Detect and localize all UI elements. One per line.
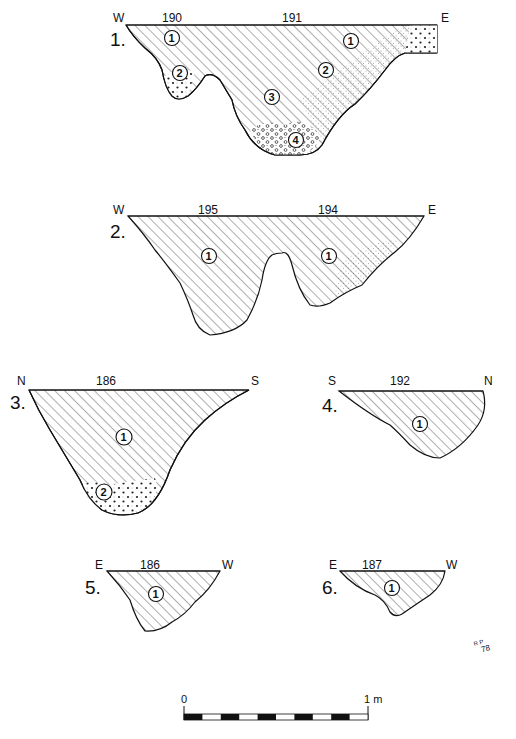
section-4-profile xyxy=(339,391,485,458)
feature-label-191: 191 xyxy=(282,11,302,25)
svg-text:1: 1 xyxy=(348,35,354,47)
section-2: W 195 194 E 2. 1 1 xyxy=(110,203,436,335)
svg-text:78: 78 xyxy=(480,643,491,654)
scale-start-label: 0 xyxy=(181,693,187,705)
scale-end-label: 1 m xyxy=(364,693,382,705)
layer-marker: 1 xyxy=(149,587,164,602)
layer-marker: 1 xyxy=(165,31,180,46)
layer-marker: 1 xyxy=(344,34,359,49)
direction-label-east: E xyxy=(441,11,449,25)
section-number: 3. xyxy=(10,392,26,413)
svg-text:4: 4 xyxy=(293,134,300,146)
section-number: 2. xyxy=(110,221,126,242)
svg-text:2: 2 xyxy=(177,67,183,79)
svg-text:1: 1 xyxy=(326,250,332,262)
direction-label-north: N xyxy=(17,374,26,388)
feature-label-194: 194 xyxy=(318,203,338,217)
section-1: W 190 191 E 1. 1 2 1 2 3 4 xyxy=(110,11,449,155)
section-3: N 186 S 3. 1 2 xyxy=(10,374,259,515)
layer-marker: 1 xyxy=(116,429,132,445)
layer-marker: 4 xyxy=(289,133,304,148)
direction-label-east: E xyxy=(329,558,337,572)
artist-signature: R P 78 xyxy=(473,637,492,655)
direction-label-west: W xyxy=(222,558,234,572)
section-number: 6. xyxy=(322,577,338,598)
feature-label-186: 186 xyxy=(96,374,116,388)
feature-label-195: 195 xyxy=(198,203,218,217)
section-drawings-figure: W 190 191 E 1. 1 2 1 2 3 4 W 195 194 E 2… xyxy=(0,0,516,739)
svg-text:2: 2 xyxy=(323,64,329,76)
feature-label-187: 187 xyxy=(362,558,382,572)
layer-marker: 1 xyxy=(385,581,400,596)
section-4: S 192 N 4. 1 xyxy=(322,374,493,458)
direction-label-west: W xyxy=(446,558,458,572)
section-2-profile xyxy=(128,216,424,335)
svg-text:3: 3 xyxy=(269,91,275,103)
scale-bar: 0 1 m xyxy=(181,693,382,720)
direction-label-north: N xyxy=(484,374,493,388)
svg-text:1: 1 xyxy=(206,250,212,262)
section-number: 4. xyxy=(322,395,338,416)
layer-dotted-fill xyxy=(405,25,437,53)
svg-text:1: 1 xyxy=(389,582,395,594)
svg-text:2: 2 xyxy=(101,486,107,498)
section-number: 1. xyxy=(110,29,126,50)
layer-marker: 2 xyxy=(96,484,112,500)
section-5-profile xyxy=(107,571,220,631)
direction-label-south: S xyxy=(328,374,336,388)
feature-label-186: 186 xyxy=(140,558,160,572)
svg-text:1: 1 xyxy=(121,431,127,443)
feature-label-192: 192 xyxy=(390,374,410,388)
svg-text:1: 1 xyxy=(153,588,159,600)
svg-text:1: 1 xyxy=(169,32,175,44)
direction-label-south: S xyxy=(251,374,259,388)
direction-label-west: W xyxy=(113,203,125,217)
direction-label-east: E xyxy=(95,558,103,572)
section-number: 5. xyxy=(85,577,101,598)
section-6: E 187 W 6. 1 xyxy=(322,558,458,616)
section-5: E 186 W 5. 1 xyxy=(85,558,234,631)
svg-text:1: 1 xyxy=(417,418,423,430)
layer-marker: 1 xyxy=(413,417,428,432)
layer-marker: 1 xyxy=(202,249,217,264)
direction-label-east: E xyxy=(428,203,436,217)
feature-label-190: 190 xyxy=(162,11,182,25)
direction-label-west: W xyxy=(113,11,125,25)
layer-marker: 1 xyxy=(322,249,337,264)
layer-marker: 3 xyxy=(265,90,280,105)
layer-marker: 2 xyxy=(173,66,188,81)
layer-marker: 2 xyxy=(319,63,334,78)
layer-4-pebbles xyxy=(250,122,320,155)
